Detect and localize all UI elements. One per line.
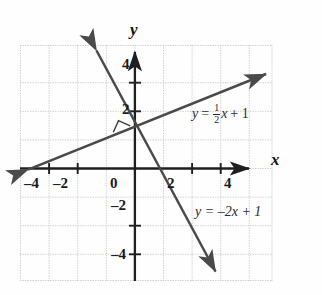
line-neg2x-plus-1 [97,51,216,272]
x-tick-label-neg2: –2 [53,176,68,191]
x-tick-label-2: 2 [167,176,175,191]
x-tick-label-4: 4 [224,176,232,191]
equation-label-line1-variable: x [221,107,227,121]
equation-label-line2: y = –2x + 1 [195,205,261,219]
grid-lines [20,45,272,281]
y-axis-name: y [130,21,138,38]
equation-label-line1: y = 1 2 x + 1 [192,103,249,125]
y-tick-label-4: 4 [122,57,130,72]
equation-label-line1-equals: = [201,107,209,121]
y-tick-label-2: 2 [122,102,130,117]
coordinate-plane-svg [0,0,322,295]
fraction-denominator: 2 [213,114,220,126]
fraction-numerator: 1 [213,103,220,114]
equation-label-line1-y: y [192,107,198,121]
x-tick-label-0: 0 [110,176,118,191]
y-tick-label-neg2: –2 [111,198,126,213]
equation-label-line2-text: y = –2x + 1 [195,205,261,219]
y-tick-label-neg4: –4 [111,247,126,262]
x-axis-name: x [271,151,280,168]
graph-figure: –4 –2 0 2 4 4 2 –2 –4 y x y = 1 2 x + 1 … [0,0,322,295]
x-tick-label-neg4: –4 [24,176,39,191]
equation-label-line1-fraction: 1 2 [213,103,220,125]
equation-label-line1-tail: + 1 [230,107,248,121]
